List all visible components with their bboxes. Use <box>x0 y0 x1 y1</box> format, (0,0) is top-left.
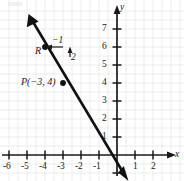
point-p-label: P(−3, 4) <box>21 77 56 87</box>
plotted-line <box>33 21 125 174</box>
x-tick-label-2: 2 <box>151 162 156 172</box>
y-tick-label-7: 7 <box>102 24 107 34</box>
x-tick-label-1: 1 <box>133 162 138 172</box>
x-tick-label-neg4: -4 <box>39 162 47 172</box>
x-tick-label-neg3: -3 <box>57 162 65 172</box>
y-axis-label: y <box>120 3 124 13</box>
y-tick-label-6: 6 <box>102 42 107 52</box>
x-tick-label-neg6: -6 <box>3 162 11 172</box>
x-axis-label: x <box>175 150 179 160</box>
graph-figure: 7 6 5 4 3 2 1 -6 -5 -4 -3 -2 -1 1 2 x y … <box>0 0 184 181</box>
point-r-label: R <box>35 46 41 56</box>
y-tick-label-4: 4 <box>102 78 107 88</box>
coordinate-plane-svg <box>0 0 184 181</box>
point-p-dot <box>60 80 66 86</box>
y-tick-label-2: 2 <box>102 114 107 124</box>
x-tick-label-neg5: -5 <box>21 162 29 172</box>
y-tick-label-5: 5 <box>102 60 107 70</box>
y-tick-label-3: 3 <box>102 96 107 106</box>
rise-value-label: 2 <box>71 53 76 63</box>
y-tick-label-1: 1 <box>102 132 107 142</box>
x-tick-label-neg2: -2 <box>75 162 83 172</box>
x-tick-label-neg1: -1 <box>93 162 101 172</box>
line-arrowhead-top <box>27 14 39 27</box>
run-value-label: −1 <box>52 36 63 46</box>
